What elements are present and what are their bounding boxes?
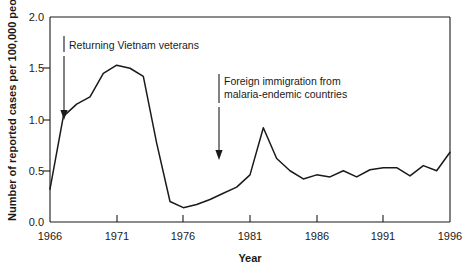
x-tick-label-1986: 1986: [305, 230, 329, 242]
annotation-immigration-label-line1: Foreign immigration from: [224, 75, 341, 87]
x-tick-label-1971: 1971: [105, 230, 129, 242]
malaria-cases-line-chart: Number of reported cases per 100,000 peo…: [0, 0, 472, 271]
x-tick-label-1966: 1966: [38, 230, 62, 242]
annotation-immigration-label-line2: malaria-endemic countries: [224, 88, 347, 100]
y-axis-title: Number of reported cases per 100,000 peo…: [6, 0, 18, 221]
x-tick-label-1996: 1996: [438, 230, 462, 242]
x-tick-label-1976: 1976: [171, 230, 195, 242]
chart-svg: Number of reported cases per 100,000 peo…: [0, 0, 472, 271]
x-tick-label-1981: 1981: [238, 230, 262, 242]
y-tick-label-2-0: 2.0: [29, 11, 44, 23]
annotation-vietnam-label: Returning Vietnam veterans: [69, 39, 199, 51]
x-axis-title: Year: [238, 252, 262, 264]
x-tick-label-1991: 1991: [371, 230, 395, 242]
y-tick-label-1-0: 1.0: [29, 114, 44, 126]
y-tick-label-0-5: 0.5: [29, 165, 44, 177]
y-tick-label-1-5: 1.5: [29, 62, 44, 74]
y-tick-label-0-0: 0.0: [29, 216, 44, 228]
